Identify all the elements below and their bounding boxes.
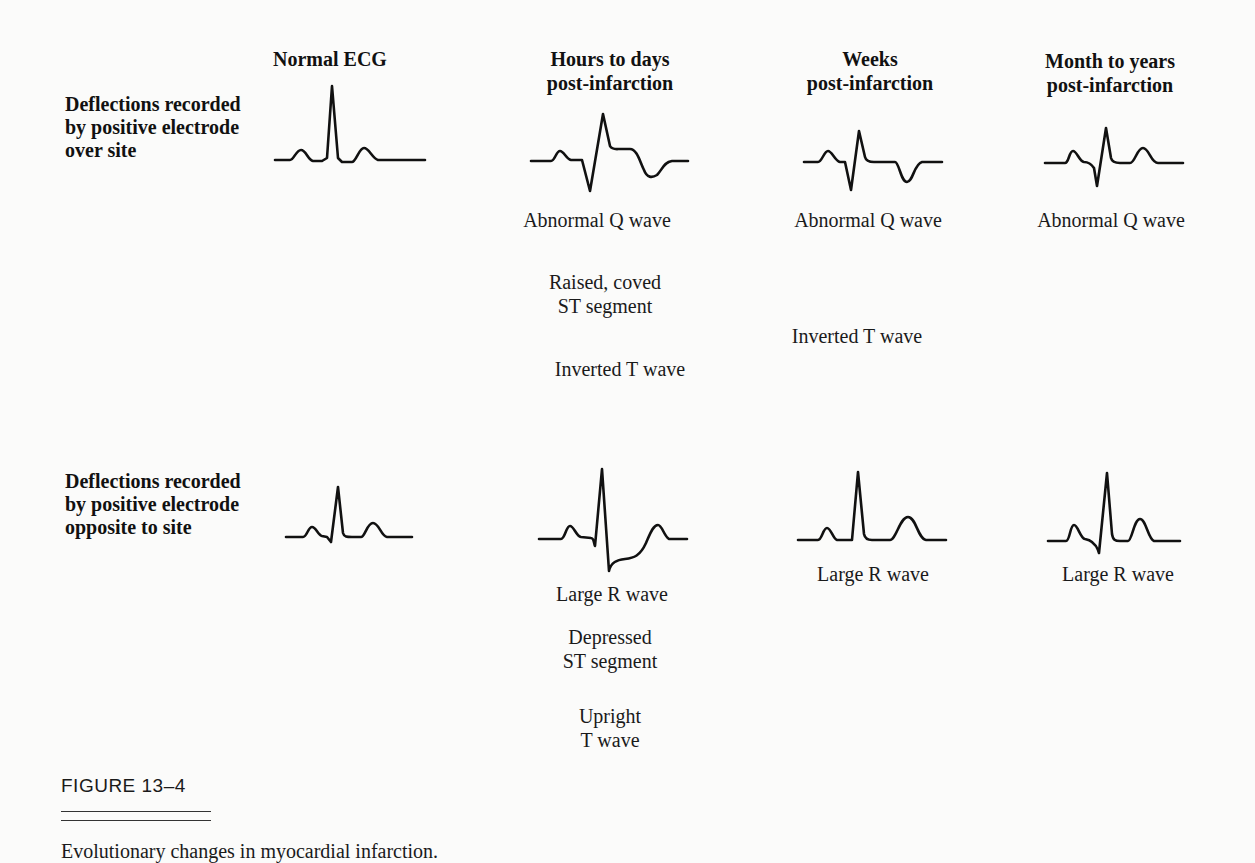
ecg-normal-over-site [275, 86, 425, 162]
annotation-weeks-large-r: Large R wave [778, 562, 968, 586]
figure-label-rule-bottom [61, 820, 211, 821]
annotation-hours-inverted-t: Inverted T wave [515, 357, 725, 381]
annotation-weeks-inverted-t: Inverted T wave [752, 324, 962, 348]
annotation-hours-depressed-st: Depressed ST segment [520, 625, 700, 673]
figure-caption: Evolutionary changes in myocardial infar… [61, 840, 438, 863]
annotation-hours-raised-st-line2: ST segment [520, 294, 690, 318]
figure-label: FIGURE 13–4 [61, 775, 186, 797]
annotation-hours-upright-t-line1: Upright [540, 704, 680, 728]
ecg-hours-opposite-site [539, 469, 687, 571]
ecg-weeks-over-site [804, 131, 942, 190]
annotation-weeks-abnormal-q: Abnormal Q wave [763, 208, 973, 232]
ecg-hours-over-site [531, 114, 688, 191]
annotation-months-large-r: Large R wave [1023, 562, 1213, 586]
annotation-hours-large-r: Large R wave [517, 582, 707, 606]
figure-label-rule-top [61, 811, 211, 812]
annotation-hours-upright-t-line2: T wave [540, 728, 680, 752]
annotation-hours-abnormal-q: Abnormal Q wave [492, 208, 702, 232]
ecg-normal-opposite-site [286, 487, 412, 542]
annotation-hours-depressed-st-line2: ST segment [520, 649, 700, 673]
annotation-hours-upright-t: Upright T wave [540, 704, 680, 752]
annotation-hours-raised-st: Raised, coved ST segment [520, 270, 690, 318]
annotation-hours-raised-st-line1: Raised, coved [520, 270, 690, 294]
ecg-months-over-site [1045, 128, 1183, 186]
annotation-hours-depressed-st-line1: Depressed [520, 625, 700, 649]
annotation-months-abnormal-q: Abnormal Q wave [1006, 208, 1216, 232]
ecg-weeks-opposite-site [798, 472, 946, 540]
ecg-months-opposite-site [1048, 473, 1180, 553]
